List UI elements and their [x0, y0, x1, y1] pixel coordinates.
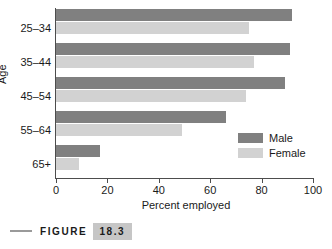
bar-female-55-64	[56, 124, 182, 136]
legend: Male Female	[238, 130, 306, 160]
x-axis-tick-label: 80	[247, 184, 277, 196]
y-axis-tick-label: 65+	[0, 158, 51, 170]
caption-rule	[10, 230, 32, 232]
legend-item-male: Male	[238, 130, 306, 145]
x-axis-tick	[313, 179, 314, 183]
caption-number: 18.3	[93, 223, 132, 240]
y-axis-tick-label: 35–44	[0, 56, 51, 68]
y-axis-tick-label: 45–54	[0, 90, 51, 102]
x-axis-tick-label: 100	[298, 184, 328, 196]
bar-female-25-34	[56, 22, 249, 34]
x-axis-tick-label: 0	[41, 184, 71, 196]
x-axis-tick-label: 40	[144, 184, 174, 196]
x-axis-tick-label: 60	[195, 184, 225, 196]
legend-item-female: Female	[238, 145, 306, 160]
legend-swatch-female-icon	[238, 148, 263, 158]
bar-group	[56, 42, 313, 76]
bar-group	[56, 76, 313, 110]
bar-female-65+	[56, 158, 79, 170]
x-axis-title-text: Percent employed	[142, 199, 231, 211]
x-axis-tick	[262, 179, 263, 183]
bar-male-65+	[56, 145, 100, 157]
bar-male-45-54	[56, 77, 285, 89]
x-axis-title: Percent employed	[0, 199, 332, 211]
x-axis-tick	[56, 179, 57, 183]
figure-caption: FIGURE 18.3	[10, 222, 132, 240]
legend-label-male: Male	[269, 132, 293, 144]
legend-label-female: Female	[269, 147, 306, 159]
bar-male-55-64	[56, 111, 226, 123]
bar-female-45-54	[56, 90, 246, 102]
x-axis-tick-label: 20	[92, 184, 122, 196]
bar-male-25-34	[56, 9, 292, 21]
y-axis-tick-label: 25–34	[0, 22, 51, 34]
y-axis-tick-label: 55–64	[0, 124, 51, 136]
x-axis-tick	[210, 179, 211, 183]
bar-male-35-44	[56, 43, 290, 55]
x-axis-tick	[159, 179, 160, 183]
legend-swatch-male-icon	[238, 133, 263, 143]
bar-group	[56, 8, 313, 42]
bar-female-35-44	[56, 56, 254, 68]
x-axis-line	[56, 178, 314, 179]
caption-word: FIGURE	[40, 226, 87, 237]
x-axis-tick	[107, 179, 108, 183]
figure-18-3: Age 25–3435–4445–5455–6465+ 020406080100…	[0, 0, 332, 249]
